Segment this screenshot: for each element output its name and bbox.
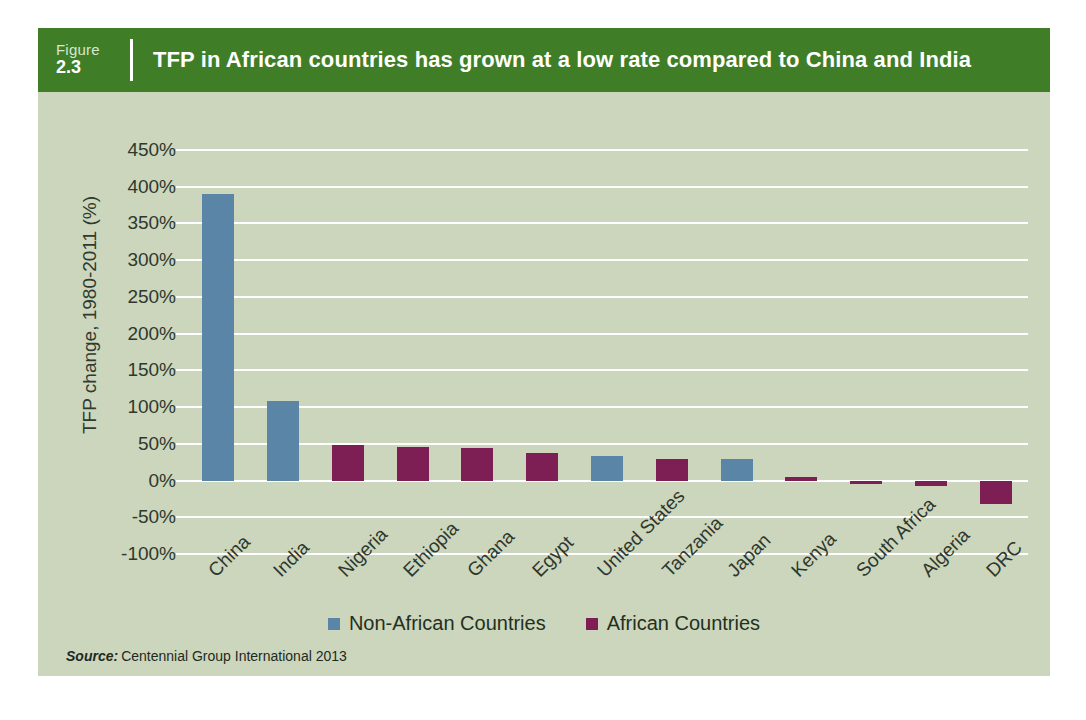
y-axis-tick-mark bbox=[176, 480, 186, 482]
chart-legend: Non-African CountriesAfrican Countries bbox=[38, 612, 1050, 635]
chart-body: TFP change, 1980-2011 (%) 450%400%350%30… bbox=[38, 92, 1050, 676]
bar-japan[interactable] bbox=[721, 459, 753, 480]
bar-ethiopia[interactable] bbox=[397, 447, 429, 480]
bar-united-states[interactable] bbox=[591, 456, 623, 481]
y-axis-tick-mark bbox=[176, 333, 186, 335]
y-axis-tick-mark bbox=[176, 222, 186, 224]
figure-word-label: Figure bbox=[56, 42, 130, 58]
y-axis-tick-label: 50% bbox=[96, 433, 176, 455]
y-axis-tick-label: 150% bbox=[96, 359, 176, 381]
plot-area bbox=[186, 92, 1028, 676]
y-axis-tick-labels: 450%400%350%300%250%200%150%100%50%0%-50… bbox=[96, 92, 176, 676]
y-axis-tick-mark bbox=[176, 443, 186, 445]
legend-label: African Countries bbox=[607, 612, 760, 635]
bar-south-africa[interactable] bbox=[850, 481, 882, 484]
y-axis-tick-label: 350% bbox=[96, 212, 176, 234]
bar-nigeria[interactable] bbox=[332, 445, 364, 480]
figure-number: 2.3 bbox=[56, 58, 130, 77]
y-axis-tick-mark bbox=[176, 516, 186, 518]
y-axis-tick-label: 250% bbox=[96, 286, 176, 308]
y-axis-tick-label: 100% bbox=[96, 396, 176, 418]
legend-item-african[interactable]: African Countries bbox=[586, 612, 760, 635]
figure-number-block: Figure 2.3 bbox=[38, 42, 130, 78]
y-axis-tick-label: -50% bbox=[96, 506, 176, 528]
bar-china[interactable] bbox=[202, 194, 234, 480]
bar-egypt[interactable] bbox=[526, 453, 558, 480]
bar-drc[interactable] bbox=[980, 481, 1012, 505]
y-axis-tick-mark bbox=[176, 259, 186, 261]
y-axis-tick-mark bbox=[176, 296, 186, 298]
y-axis-tick-label: 200% bbox=[96, 323, 176, 345]
y-axis-tick-label: -100% bbox=[96, 543, 176, 565]
legend-item-non-african[interactable]: Non-African Countries bbox=[328, 612, 546, 635]
y-axis-tick-label: 300% bbox=[96, 249, 176, 271]
y-axis-tick-mark bbox=[176, 369, 186, 371]
figure-header: Figure 2.3 TFP in African countries has … bbox=[38, 28, 1050, 92]
y-axis-tick-mark bbox=[176, 149, 186, 151]
bar-kenya[interactable] bbox=[785, 477, 817, 481]
source-label: Source: bbox=[66, 648, 118, 664]
header-divider bbox=[130, 39, 133, 81]
y-axis-tick-mark bbox=[176, 406, 186, 408]
legend-label: Non-African Countries bbox=[349, 612, 546, 635]
bar-ghana[interactable] bbox=[461, 448, 493, 480]
source-note: Source:Centennial Group International 20… bbox=[66, 648, 347, 664]
y-axis-tick-label: 400% bbox=[96, 176, 176, 198]
bar-india[interactable] bbox=[267, 401, 299, 480]
y-axis-tick-mark bbox=[176, 186, 186, 188]
figure-card: Figure 2.3 TFP in African countries has … bbox=[38, 28, 1050, 676]
source-text: Centennial Group International 2013 bbox=[121, 648, 347, 664]
bar-tanzania[interactable] bbox=[656, 459, 688, 480]
legend-swatch-icon bbox=[328, 618, 340, 630]
y-axis-tick-label: 0% bbox=[96, 470, 176, 492]
bar-algeria[interactable] bbox=[915, 481, 947, 487]
bars-layer bbox=[186, 92, 1028, 676]
y-axis-tick-label: 450% bbox=[96, 139, 176, 161]
legend-swatch-icon bbox=[586, 618, 598, 630]
y-axis-tick-mark bbox=[176, 553, 186, 555]
page-title: TFP in African countries has grown at a … bbox=[153, 47, 971, 73]
